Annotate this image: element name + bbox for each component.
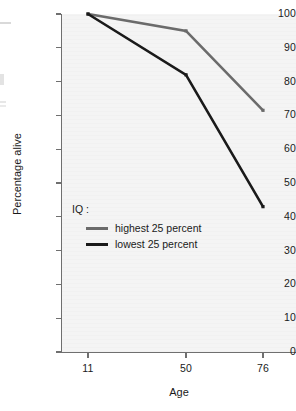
y-axis-tick-label: 50 — [244, 176, 296, 188]
legend-entries: highest 25 percentlowest 25 percent — [72, 222, 201, 250]
y-axis-tick-label: 100 — [244, 7, 296, 19]
legend-item: lowest 25 percent — [86, 238, 201, 250]
y-axis-tick — [56, 13, 61, 14]
y-axis-title: Percentage alive — [11, 94, 23, 254]
x-axis-tick-label: 76 — [243, 362, 283, 374]
legend-label: highest 25 percent — [115, 222, 201, 234]
y-axis-tick-label: 0 — [244, 345, 296, 357]
legend: IQ : highest 25 percentlowest 25 percent — [72, 203, 201, 250]
y-axis-tick-label: 60 — [244, 142, 296, 154]
x-axis-title: Age — [62, 386, 296, 398]
y-axis-tick-label: 20 — [244, 277, 296, 289]
y-axis-tick — [56, 351, 61, 352]
y-axis-tick-label: 90 — [244, 41, 296, 53]
y-axis-line — [61, 14, 62, 353]
y-axis-tick-label: 40 — [244, 210, 296, 222]
x-axis-tick-label: 50 — [166, 362, 206, 374]
y-axis-tick — [56, 216, 61, 217]
legend-label: lowest 25 percent — [115, 238, 197, 250]
y-axis-tick — [56, 149, 61, 150]
y-axis-tick-label: 80 — [244, 75, 296, 87]
legend-title: IQ : — [72, 203, 201, 215]
legend-swatch — [86, 227, 108, 230]
page-edge-artifact — [0, 105, 6, 107]
legend-swatch — [86, 243, 108, 246]
page-edge-artifact — [0, 22, 11, 24]
y-axis-tick — [56, 250, 61, 251]
y-axis-tick-label: 10 — [244, 311, 296, 323]
y-axis-tick-label: 70 — [244, 108, 296, 120]
x-axis-tick — [262, 353, 263, 358]
y-axis-tick — [56, 318, 61, 319]
figure: 1009080706050403020100 115076 Age Percen… — [0, 0, 296, 411]
legend-item: highest 25 percent — [86, 222, 201, 234]
y-axis-tick — [56, 115, 61, 116]
y-axis-tick — [56, 47, 61, 48]
page-edge-artifact — [0, 101, 6, 103]
y-axis-tick — [56, 81, 61, 82]
x-axis-tick-label: 11 — [68, 362, 108, 374]
y-axis-tick — [56, 182, 61, 183]
x-axis-tick — [87, 353, 88, 358]
y-axis-tick — [56, 284, 61, 285]
x-axis-tick — [185, 353, 186, 358]
page-edge-artifact — [0, 74, 4, 85]
y-axis-tick-label: 30 — [244, 244, 296, 256]
